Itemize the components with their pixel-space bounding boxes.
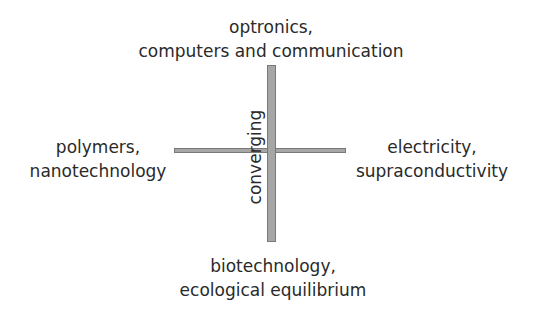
top-label-line-1: optronics, xyxy=(138,15,403,39)
left-label: polymers, nanotechnology xyxy=(30,135,167,183)
bottom-label: biotechnology, ecological equilibrium xyxy=(180,254,367,302)
right-label: electricity, supraconductivity xyxy=(356,135,508,183)
converging-label: converging xyxy=(246,110,264,205)
right-label-line-1: electricity, xyxy=(356,135,508,159)
bottom-label-line-1: biotechnology, xyxy=(180,254,367,278)
vertical-bar xyxy=(267,65,276,242)
top-label: optronics, computers and communication xyxy=(138,15,403,63)
bottom-label-line-2: ecological equilibrium xyxy=(180,278,367,302)
left-label-line-1: polymers, xyxy=(30,135,167,159)
left-label-line-2: nanotechnology xyxy=(30,159,167,183)
top-label-line-2: computers and communication xyxy=(138,39,403,63)
right-label-line-2: supraconductivity xyxy=(356,159,508,183)
